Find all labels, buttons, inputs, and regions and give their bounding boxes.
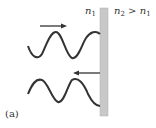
medium-right-label: n2 > n1 <box>114 6 151 18</box>
n1-subscript: 1 <box>91 10 95 18</box>
incident-wave <box>28 32 100 58</box>
greater-than-sign: > <box>125 5 140 16</box>
medium-left-label: n1 <box>85 6 96 18</box>
boundary-interface <box>100 8 108 116</box>
reflected-wave <box>28 79 100 106</box>
arrow-right-icon <box>40 24 67 29</box>
diagram-canvas <box>0 0 156 128</box>
n1-compare-subscript: 1 <box>146 10 150 18</box>
arrow-left-icon <box>73 71 100 76</box>
figure-caption: (a) <box>5 108 19 119</box>
